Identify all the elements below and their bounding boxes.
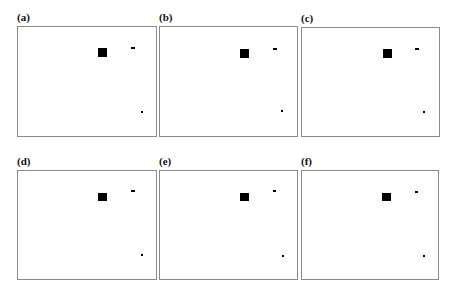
square-mark [383, 49, 392, 58]
panel-label: (e) [159, 156, 171, 167]
panel-label: (d) [17, 156, 30, 167]
dash-mark [415, 48, 419, 50]
dot-mark [282, 255, 284, 257]
square-mark [240, 49, 249, 58]
panel-frame [17, 170, 157, 280]
dash-mark [131, 190, 135, 192]
dot-mark [141, 111, 143, 113]
square-mark [98, 48, 107, 57]
dot-mark [423, 111, 425, 113]
panel-label: (a) [17, 12, 30, 23]
dot-mark [281, 110, 283, 112]
panel-frame [301, 27, 440, 137]
panel-frame [159, 170, 298, 280]
panel-label: (b) [159, 12, 172, 23]
panel-frame [159, 26, 298, 137]
square-mark [240, 193, 249, 201]
dash-mark [273, 190, 276, 192]
dash-mark [131, 47, 135, 49]
dash-mark [415, 191, 418, 193]
panel-frame [301, 170, 439, 280]
square-mark [98, 193, 107, 201]
panel-label: (c) [301, 13, 313, 24]
dot-mark [141, 254, 143, 256]
dash-mark [273, 48, 277, 50]
panel-label: (f) [301, 156, 312, 167]
square-mark [382, 193, 391, 201]
panel-frame [17, 26, 157, 137]
dot-mark [423, 255, 425, 257]
